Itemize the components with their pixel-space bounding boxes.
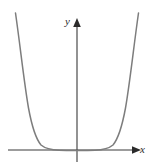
graph-canvas — [0, 0, 155, 163]
x-axis-label: x — [140, 144, 145, 155]
y-axis-arrowhead-icon — [73, 18, 81, 27]
y-axis-label: y — [65, 16, 70, 27]
graph-figure: y x — [0, 0, 155, 163]
